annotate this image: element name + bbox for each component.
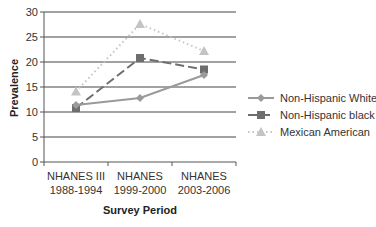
diamond-marker-icon [136, 94, 144, 102]
data-series [71, 19, 209, 112]
legend-item: Mexican American [248, 126, 370, 138]
diamond-legend-icon [257, 94, 265, 102]
y-axis-title: Prevalence [8, 59, 20, 117]
triangle-marker-icon [135, 19, 145, 28]
x-axis-ticks: NHANES III1988-1994NHANES1999-2000NHANES… [44, 162, 236, 196]
x-category-label-line2: 2003-2006 [178, 184, 231, 196]
triangle-marker-icon [199, 46, 209, 55]
x-category-label-line1: NHANES [181, 170, 227, 182]
legend-item: Non-Hispanic black [248, 109, 375, 121]
series-non-hispanic-white [72, 71, 208, 109]
x-category-label-line2: 1988-1994 [50, 184, 103, 196]
legend: Non-Hispanic WhiteNon-Hispanic blackMexi… [248, 92, 376, 138]
x-axis-title: Survey Period [103, 204, 177, 216]
y-tick-label: 5 [32, 131, 38, 143]
prevalence-line-chart: 051015202530 NHANES III1988-1994NHANES19… [0, 0, 376, 227]
y-axis-ticks: 051015202530 [26, 6, 44, 168]
y-tick-label: 15 [26, 81, 38, 93]
x-category-label-line2: 1999-2000 [114, 184, 167, 196]
legend-label: Non-Hispanic black [280, 109, 375, 121]
legend-label: Non-Hispanic White [280, 92, 376, 104]
y-tick-label: 20 [26, 56, 38, 68]
y-tick-label: 30 [26, 6, 38, 18]
y-tick-label: 25 [26, 31, 38, 43]
x-category-label-line1: NHANES [117, 170, 163, 182]
x-category-label-line1: NHANES III [47, 170, 105, 182]
legend-label: Mexican American [280, 126, 370, 138]
y-tick-label: 0 [32, 156, 38, 168]
square-marker-icon [136, 54, 144, 62]
y-tick-label: 10 [26, 106, 38, 118]
legend-item: Non-Hispanic White [248, 92, 376, 104]
square-legend-icon [257, 111, 265, 119]
